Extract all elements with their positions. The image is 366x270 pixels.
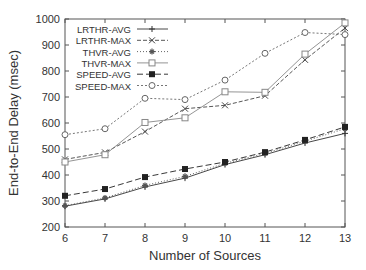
x-tick-label: 13	[339, 232, 351, 244]
y-tick-label: 400	[42, 169, 60, 181]
legend-label: LRTHR-AVG	[77, 24, 131, 35]
y-tick-label: 1000	[36, 13, 60, 25]
y-tick-label: 800	[42, 65, 60, 77]
y-tick-label: 500	[42, 143, 60, 155]
x-axis-label: Number of Sources	[149, 248, 261, 263]
legend-label: SPEED-MAX	[75, 81, 132, 92]
legend-entry: SPEED-MAX	[75, 81, 168, 92]
x-tick-label: 7	[102, 232, 108, 244]
line-chart: 2003004005006007008009001000678910111213…	[0, 0, 366, 270]
x-tick-label: 6	[62, 232, 68, 244]
x-tick-label: 10	[219, 232, 231, 244]
y-tick-label: 200	[42, 221, 60, 233]
x-tick-label: 11	[259, 232, 270, 244]
legend: LRTHR-AVGLRTHR-MAXTHVR-AVGTHVR-MAXSPEED-…	[75, 24, 168, 92]
legend-label: THVR-MAX	[81, 58, 131, 69]
x-tick-label: 8	[142, 232, 148, 244]
series-speed-avg	[62, 124, 348, 199]
legend-label: LRTHR-MAX	[76, 35, 132, 46]
y-tick-label: 700	[42, 91, 60, 103]
y-tick-label: 600	[42, 117, 60, 129]
x-tick-label: 12	[299, 232, 311, 244]
y-axis-label: End-to-End Delay (msec)	[6, 50, 21, 196]
x-tick-label: 9	[182, 232, 188, 244]
y-tick-label: 900	[42, 39, 60, 51]
y-tick-label: 300	[42, 195, 60, 207]
legend-label: SPEED-AVG	[76, 69, 131, 80]
legend-entry: LRTHR-MAX	[76, 35, 168, 46]
legend-label: THVR-AVG	[83, 47, 131, 58]
legend-entry: LRTHR-AVG	[77, 24, 168, 35]
legend-entry: THVR-MAX	[81, 58, 168, 69]
legend-entry: SPEED-AVG	[76, 69, 168, 80]
legend-entry: THVR-AVG	[83, 47, 168, 58]
